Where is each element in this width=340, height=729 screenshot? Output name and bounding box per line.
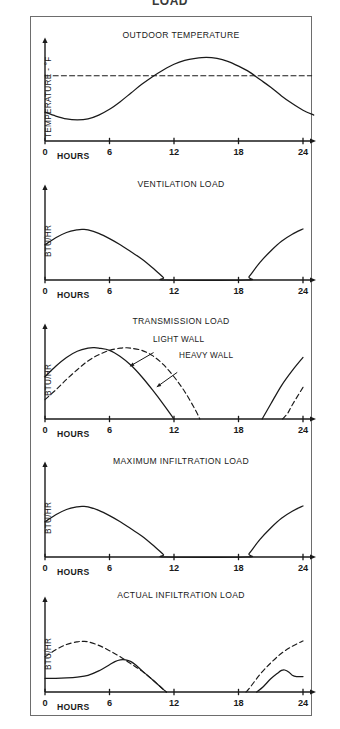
series-line [45, 57, 314, 119]
chart-panel-ventilation-load: VENTILATION LOAD BTU/HR 06121824 HOURS [31, 172, 313, 304]
x-axis-label-0: HOURS [57, 151, 90, 161]
series-line [45, 229, 303, 280]
hvac-load-figure: LOAD OUTDOOR TEMPERATURE TEMPERATURE - °… [0, 0, 340, 729]
x-tick-label: 24 [298, 698, 309, 708]
annotation-leader-arrow [130, 353, 154, 367]
x-tick-label: 0 [42, 286, 47, 296]
series-line [246, 641, 303, 692]
chart-panel-transmission-load: TRANSMISSION LOAD BTU/HR 06121824 LIGHT … [31, 311, 313, 443]
annotation-leader-arrow [157, 372, 177, 387]
x-tick-label: 18 [233, 425, 243, 435]
x-tick-label: 12 [169, 425, 179, 435]
chart-panel-maximum-infiltration-load: MAXIMUM INFILTRATION LOAD BTU/HR 0612182… [31, 449, 313, 581]
x-tick-label: 0 [42, 425, 47, 435]
x-axis-label-1: HOURS [57, 290, 90, 300]
chart-panel-outdoor-temperature: OUTDOOR TEMPERATURE TEMPERATURE - °F 061… [31, 23, 313, 165]
x-tick-label: 6 [107, 425, 112, 435]
series-line [283, 387, 303, 419]
x-tick-label: 18 [233, 286, 243, 296]
x-axis-label-2: HOURS [57, 429, 90, 439]
series-line [262, 357, 303, 419]
annotation-light-wall: LIGHT WALL [153, 335, 204, 344]
x-tick-label: 18 [233, 698, 243, 708]
x-tick-label: 6 [107, 698, 112, 708]
plot-svg-2: 06121824 [31, 311, 313, 443]
x-tick-label: 24 [298, 147, 309, 157]
chart-panel-actual-infiltration-load: ACTUAL INFILTRATION LOAD BTU/HR 06121824… [31, 582, 313, 714]
x-tick-label: 0 [42, 698, 47, 708]
x-axis-label-3: HOURS [57, 567, 90, 577]
plot-svg-1: 06121824 [31, 172, 313, 304]
plot-area-4: 06121824 [31, 582, 313, 714]
x-tick-label: 12 [169, 698, 179, 708]
x-tick-label: 6 [107, 147, 112, 157]
x-tick-label: 6 [107, 563, 112, 573]
series-line [257, 670, 303, 692]
series-line [45, 660, 166, 692]
x-axis-label-4: HOURS [57, 702, 90, 712]
series-line [45, 506, 303, 557]
x-tick-label: 12 [169, 563, 179, 573]
series-line [45, 348, 174, 419]
annotation-heavy-wall: HEAVY WALL [179, 351, 233, 360]
plot-svg-4: 06121824 [31, 582, 313, 714]
plot-area-3: 06121824 [31, 449, 313, 581]
cropped-heading: LOAD [0, 0, 340, 8]
x-tick-label: 6 [107, 286, 112, 296]
plot-svg-3: 06121824 [31, 449, 313, 581]
x-tick-label: 18 [233, 563, 243, 573]
x-tick-label: 24 [298, 425, 309, 435]
x-tick-label: 0 [42, 563, 47, 573]
x-tick-label: 24 [298, 286, 309, 296]
plot-svg-0: 06121824 [31, 23, 313, 165]
figure-frame: OUTDOOR TEMPERATURE TEMPERATURE - °F 061… [30, 16, 312, 716]
plot-area-2: 06121824 [31, 311, 313, 443]
x-tick-label: 24 [298, 563, 309, 573]
x-tick-label: 18 [233, 147, 243, 157]
x-tick-label: 12 [169, 286, 179, 296]
plot-area-1: 06121824 [31, 172, 313, 304]
x-tick-label: 12 [169, 147, 179, 157]
x-tick-label: 0 [42, 147, 47, 157]
plot-area-0: 06121824 [31, 23, 313, 165]
